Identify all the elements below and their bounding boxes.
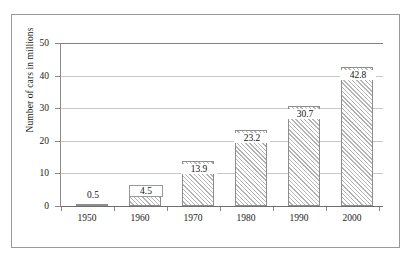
y-tick-label-40: 40 bbox=[9, 71, 49, 81]
x-axis-tick-3 bbox=[220, 207, 221, 211]
plot-area: 0.5 4.5 13.9 23.2 30.7 42.8 bbox=[61, 43, 383, 206]
x-axis-tick-2 bbox=[167, 207, 168, 211]
gridline-10 bbox=[61, 173, 383, 174]
bar-1950[interactable] bbox=[76, 204, 108, 206]
x-axis-tick-1 bbox=[114, 207, 115, 211]
x-tick-label-1970: 1970 bbox=[166, 213, 220, 223]
x-tick-label-1960: 1960 bbox=[113, 213, 167, 223]
y-tick-label-10: 10 bbox=[9, 168, 49, 178]
gridline-50 bbox=[61, 43, 383, 44]
x-tick-label-1980: 1980 bbox=[219, 213, 273, 223]
y-tick-label-50: 50 bbox=[9, 38, 49, 48]
gridline-20 bbox=[61, 141, 383, 142]
x-axis-tick-4 bbox=[273, 207, 274, 211]
x-axis-tick-0 bbox=[61, 207, 62, 211]
data-label-1980: 23.2 bbox=[234, 133, 270, 143]
x-tick-label-1990: 1990 bbox=[272, 213, 326, 223]
x-tick-label-2000: 2000 bbox=[325, 213, 379, 223]
y-tick-label-0: 0 bbox=[9, 201, 49, 211]
axis-baseline-0 bbox=[61, 206, 383, 207]
x-tick-label-1950: 1950 bbox=[60, 213, 114, 223]
y-tick-label-30: 30 bbox=[9, 103, 49, 113]
x-axis-tick-5 bbox=[326, 207, 327, 211]
bar-chart-figure: Number of cars in millions 50 40 30 20 1… bbox=[0, 0, 414, 263]
bar-1990[interactable] bbox=[288, 106, 320, 206]
data-label-2000: 42.8 bbox=[340, 70, 376, 80]
data-label-1960: 4.5 bbox=[129, 185, 163, 197]
gridline-30 bbox=[61, 108, 383, 109]
x-axis-tick-6 bbox=[379, 207, 380, 211]
gridline-40 bbox=[61, 76, 383, 77]
bar-2000[interactable] bbox=[341, 67, 373, 207]
data-label-1950: 0.5 bbox=[74, 190, 112, 200]
y-tick-label-20: 20 bbox=[9, 136, 49, 146]
data-label-1990: 30.7 bbox=[287, 109, 323, 119]
data-label-1970: 13.9 bbox=[181, 164, 217, 174]
